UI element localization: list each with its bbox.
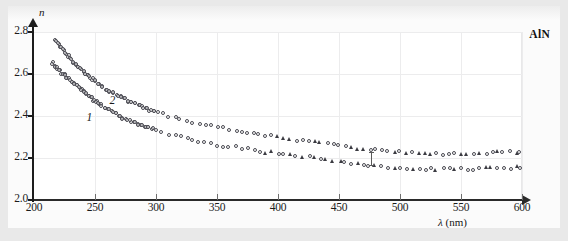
data-point-triangle [428, 152, 432, 156]
data-point-circle [245, 131, 249, 135]
y-axis-arrowhead [28, 18, 38, 27]
x-tick [400, 194, 401, 200]
data-point-triangle [488, 165, 492, 169]
data-point-circle [156, 110, 160, 114]
error-bar-cap-top [369, 152, 374, 153]
data-point-circle [253, 148, 257, 152]
data-point-circle [509, 167, 513, 171]
data-point-triangle [411, 167, 415, 171]
data-point-circle [410, 150, 414, 154]
x-tick-label: 550 [441, 201, 481, 213]
data-point-circle [221, 125, 225, 129]
data-point-circle [179, 134, 183, 138]
data-point-circle [385, 149, 389, 153]
x-tick-label: 450 [319, 201, 359, 213]
y-tick [28, 31, 34, 33]
data-point-circle [442, 166, 446, 170]
data-point-triangle [452, 167, 456, 171]
data-point-triangle [404, 151, 408, 155]
data-point-circle [209, 141, 213, 145]
gridline-horizontal [34, 116, 522, 117]
plot-area: 12 [34, 32, 522, 200]
x-tick-label: 250 [75, 201, 115, 213]
data-point-circle [196, 140, 200, 144]
data-point-circle [226, 145, 230, 149]
data-point-circle [517, 150, 521, 154]
y-axis-line [32, 26, 34, 202]
data-point-circle [307, 139, 311, 143]
gridline-horizontal [34, 74, 522, 75]
data-point-circle [301, 138, 305, 142]
curve-label-1: 1 [87, 111, 93, 123]
data-point-circle [295, 139, 299, 143]
y-tick [28, 157, 34, 159]
x-tick [95, 194, 96, 200]
curve-label-2: 2 [110, 94, 116, 106]
data-point-circle [459, 166, 463, 170]
data-point-triangle [484, 165, 488, 169]
data-point-circle [508, 149, 512, 153]
data-point-circle [452, 151, 456, 155]
data-point-triangle [263, 151, 267, 155]
data-point-triangle [433, 168, 437, 172]
data-point-circle [227, 128, 231, 132]
x-tick-label: 400 [258, 201, 298, 213]
data-point-circle [424, 168, 428, 172]
data-point-circle [186, 136, 190, 140]
data-point-circle [466, 168, 470, 172]
data-point-circle [447, 152, 451, 156]
data-point-circle [177, 117, 181, 121]
data-point-circle [429, 166, 433, 170]
sample-label: AlN [529, 28, 550, 40]
data-point-circle [344, 144, 348, 148]
data-point-triangle [287, 137, 291, 141]
data-point-circle [500, 150, 504, 154]
data-point-circle [336, 143, 340, 147]
data-point-circle [342, 160, 346, 164]
data-point-circle [281, 152, 285, 156]
data-point-circle [190, 138, 194, 142]
data-point-circle [405, 167, 409, 171]
data-point-circle [240, 130, 244, 134]
data-point-triangle [477, 151, 481, 155]
x-axis-title: λ (nm) [438, 216, 467, 228]
data-point-circle [161, 111, 165, 115]
y-tick [28, 115, 34, 117]
data-point-triangle [330, 159, 334, 163]
data-point-circle [235, 129, 239, 133]
data-point-triangle [355, 147, 359, 151]
data-point-triangle [464, 152, 468, 156]
data-point-circle [185, 119, 189, 123]
data-point-circle [256, 132, 260, 136]
data-point-circle [252, 131, 256, 135]
y-tick-label: 2.8 [0, 24, 28, 36]
data-point-triangle [495, 149, 499, 153]
data-point-circle [174, 133, 178, 137]
y-tick-label: 2.2 [0, 150, 28, 162]
x-tick-label: 600 [502, 201, 542, 213]
data-point-circle [398, 166, 402, 170]
data-point-circle [502, 166, 506, 170]
data-point-circle [434, 151, 438, 155]
gridline-horizontal [34, 32, 522, 33]
data-point-triangle [349, 145, 353, 149]
data-point-circle [166, 115, 170, 119]
x-tick [278, 194, 279, 200]
gridline-horizontal [34, 158, 522, 159]
data-point-triangle [361, 147, 365, 151]
figure-canvas: 12 2.02.22.42.62.8 200250300350400450500… [0, 0, 568, 241]
data-point-circle [380, 148, 384, 152]
data-point-circle [373, 147, 377, 151]
data-point-circle [379, 164, 383, 168]
data-point-circle [258, 150, 262, 154]
data-point-circle [418, 167, 422, 171]
data-point-triangle [423, 151, 427, 155]
data-point-circle [495, 166, 499, 170]
gridline-vertical [522, 32, 523, 200]
data-point-circle [477, 166, 481, 170]
data-point-triangle [393, 166, 397, 170]
data-point-circle [209, 123, 213, 127]
data-point-triangle [323, 157, 327, 161]
data-point-triangle [288, 152, 292, 156]
x-tick [339, 194, 340, 200]
